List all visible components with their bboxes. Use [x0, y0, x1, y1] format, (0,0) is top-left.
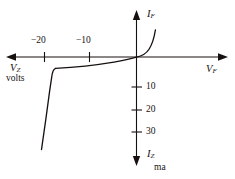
x-axis-left-label-unit: volts	[6, 74, 24, 84]
iv-curve-breakdown-branch	[42, 68, 56, 149]
x-axis-tick-label-neg10: −10	[76, 36, 91, 46]
horizontal-axis-left-arrow-icon	[6, 53, 16, 61]
chart-canvas	[0, 0, 235, 179]
horizontal-axis-right-arrow-icon	[218, 53, 228, 61]
vertical-axis-bottom-arrow-icon	[133, 156, 140, 166]
x-axis-right-label: VF	[206, 64, 217, 75]
x-axis-right-label-subscript: F	[212, 67, 216, 75]
iv-curve-reverse-leakage-branch	[56, 57, 137, 68]
y-axis-top-label: IF	[147, 9, 155, 20]
iv-curve-forward-conduction-branch	[137, 30, 156, 57]
zener-diode-iv-characteristic-figure: −20 −10 VZ volts VF IF IZ ma 10 20 30	[0, 0, 235, 179]
y-axis-bottom-label-unit: ma	[154, 163, 166, 173]
y-axis-tick-label-20: 20	[146, 105, 156, 115]
x-axis-tick-label-neg20: −20	[31, 36, 46, 46]
y-axis-tick-label-10: 10	[146, 82, 156, 92]
y-axis-bottom-label: IZ	[147, 149, 154, 160]
y-axis-bottom-label-subscript: Z	[151, 152, 155, 160]
y-axis-tick-label-30: 30	[146, 127, 156, 137]
y-axis-top-label-subscript: F	[151, 12, 155, 20]
vertical-axis-top-arrow-icon	[133, 10, 140, 20]
